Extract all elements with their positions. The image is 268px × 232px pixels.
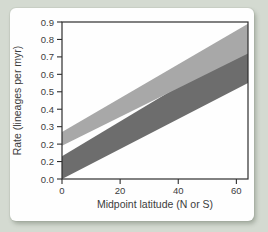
y-tick-label: 0.2: [41, 156, 54, 167]
x-tick-label: 60: [231, 185, 242, 196]
y-tick-label: 0.4: [41, 104, 54, 115]
x-tick-label: 0: [59, 185, 64, 196]
x-axis-title: Midpoint latitude (N or S): [97, 198, 213, 210]
y-tick-label: 0.9: [41, 17, 54, 28]
y-tick-label: 0.5: [41, 86, 54, 97]
y-axis-title: Rate (lineages per myr): [11, 46, 23, 156]
x-tick-label: 40: [173, 185, 184, 196]
y-tick-label: 0.3: [41, 121, 54, 132]
y-tick-label: 0.8: [41, 34, 54, 45]
rate-vs-latitude-chart: 0.00.20.20.30.40.50.60.70.80.90204060Mid…: [0, 0, 268, 232]
x-tick-label: 20: [115, 185, 126, 196]
y-tick-label: 0.7: [41, 51, 54, 62]
y-tick-label: 0.0: [41, 174, 54, 185]
y-tick-label: 0.6: [41, 69, 54, 80]
y-tick-label: 0.2: [41, 139, 54, 150]
figure-background: 0.00.20.20.30.40.50.60.70.80.90204060Mid…: [0, 0, 268, 232]
